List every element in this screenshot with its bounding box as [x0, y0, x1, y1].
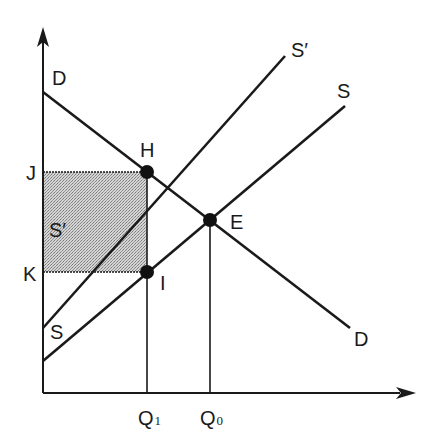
- supply-demand-diagram: D D S′ S′ S S H I E J K Q1 Q0: [0, 0, 437, 445]
- supply-shifted-label-inside: S′: [49, 219, 66, 241]
- price-label-K: K: [23, 263, 37, 285]
- quantity-label-Q1: Q1: [138, 407, 161, 429]
- quantity-label-Q0: Q0: [200, 407, 223, 429]
- demand-label-bottom: D: [354, 328, 368, 350]
- supply-label-top: S: [337, 80, 350, 102]
- demand-label-top: D: [52, 67, 66, 89]
- supply-shifted-label-top: S′: [291, 39, 308, 61]
- point-E-label: E: [230, 211, 243, 233]
- point-I: [140, 265, 154, 279]
- point-H-label: H: [140, 139, 154, 161]
- point-H: [140, 165, 154, 179]
- point-E: [203, 213, 217, 227]
- price-label-J: J: [26, 162, 36, 184]
- point-I-label: I: [160, 272, 166, 294]
- supply-label-bottom: S: [50, 321, 63, 343]
